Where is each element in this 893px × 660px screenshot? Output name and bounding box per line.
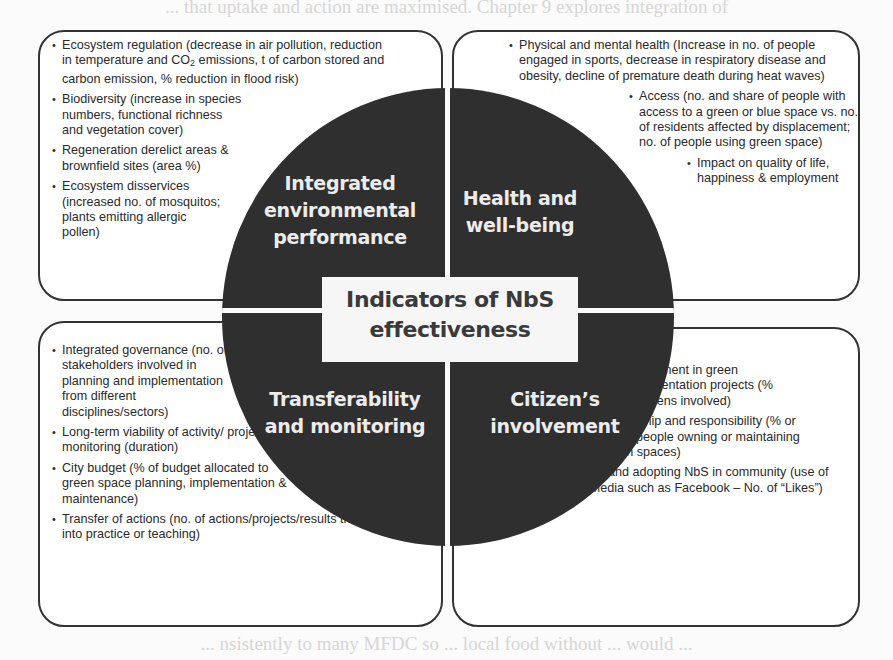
list-item: Physical and mental health (Increase in … <box>509 38 854 84</box>
list-item: Regeneration derelict areas & brownfield… <box>52 143 232 174</box>
list-item: Biodiversity (increase in species number… <box>52 92 242 138</box>
background-page-text-bottom: ... nsistently to many MFDC so ... local… <box>0 633 893 655</box>
list-item: Ecosystem regulation (decrease in air po… <box>52 38 392 87</box>
center-title-box: Indicators of NbS effectiveness <box>322 277 578 362</box>
quadrant-label-citizens: Citizen’s involvement <box>470 386 640 440</box>
title-line-1: Indicators of NbS <box>322 285 578 315</box>
label-line: Integrated <box>240 170 440 197</box>
label-line: Health and <box>455 185 585 212</box>
label-line: environmental <box>240 197 440 224</box>
list-item: Integrated governance (no. of stakeholde… <box>52 343 240 420</box>
label-line: well-being <box>455 212 585 239</box>
quadrant-label-environmental: Integrated environmental performance <box>240 170 440 251</box>
label-line: and monitoring <box>245 413 445 440</box>
list-item: Ecosystem disservices (increased no. of … <box>52 179 222 241</box>
label-line: performance <box>240 224 440 251</box>
quadrant-label-health: Health and well-being <box>455 185 585 239</box>
diagram-title: Indicators of NbS effectiveness <box>322 285 578 345</box>
quadrant-label-transferability: Transferability and monitoring <box>245 386 445 440</box>
label-line: Transferability <box>245 386 445 413</box>
list-item: Impact on quality of life, happiness & e… <box>687 156 857 187</box>
list-item: City budget (% of budget allocated to gr… <box>52 461 302 507</box>
label-line: involvement <box>470 413 640 440</box>
title-line-2: effectiveness <box>322 315 578 345</box>
label-line: Citizen’s <box>470 386 640 413</box>
list-item: Access (no. and share of people with acc… <box>629 89 859 151</box>
background-page-text-top: ... that uptake and action are maximised… <box>0 0 893 18</box>
